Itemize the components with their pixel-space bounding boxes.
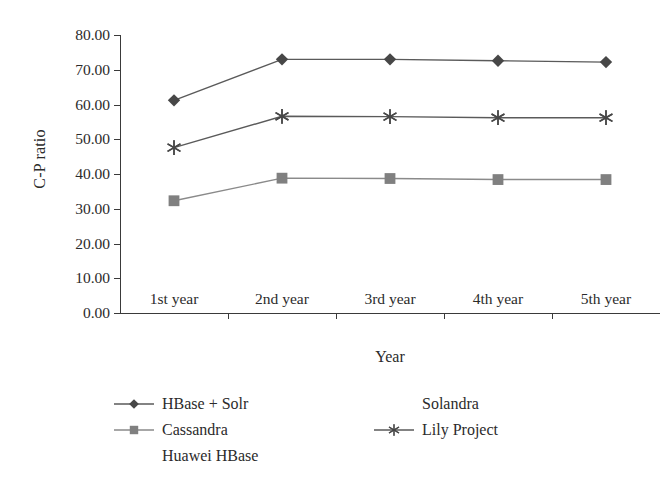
chart-legend: HBase + SolrCassandraHuawei HBaseSolandr… [112,392,582,472]
legend-item[interactable]: Huawei HBase [112,444,258,468]
legend-label: Lily Project [416,422,498,438]
y-axis-tick-label: 10.00 [44,271,110,287]
y-axis-tick-mark [114,209,120,210]
y-axis-tick-mark [114,70,120,71]
square-marker [277,173,288,184]
y-axis-tick-mark [114,35,120,36]
y-axis-tick-mark [114,139,120,140]
legend-marker-asterisk-icon [372,420,416,440]
legend-marker-square-icon [112,420,156,440]
y-axis-tick-mark [114,244,120,245]
x-axis-label: Year [120,348,660,366]
legend-marker-diamond-icon [112,394,156,414]
legend-label: Huawei HBase [156,448,258,464]
x-axis-tick-mark [552,313,553,319]
square-marker [385,173,396,184]
diamond-marker [276,53,288,65]
x-axis-tick-mark [228,313,229,319]
plot-area [120,35,660,313]
x-axis-tick-label: 4th year [438,290,558,308]
y-axis-tick-mark [114,313,120,314]
y-axis-tick-mark [114,278,120,279]
x-axis-tick-label: 5th year [546,290,666,308]
diamond-marker [384,53,396,65]
legend-label: Cassandra [156,422,228,438]
diamond-marker [600,56,612,68]
y-axis-tick-label: 0.00 [44,305,110,321]
y-axis-tick-label: 20.00 [44,236,110,252]
square-marker [493,174,504,185]
y-axis-tick-mark [114,105,120,106]
asterisk-marker [168,140,181,155]
y-axis-tick-label: 60.00 [44,97,110,113]
square-marker [169,195,180,206]
chart-figure: C-P ratio 0.0010.0020.0030.0040.0050.006… [0,0,669,479]
legend-item[interactable]: Cassandra [112,418,228,442]
y-axis-tick-mark [114,174,120,175]
series-layer [120,35,660,313]
legend-marker-none-icon [112,446,156,466]
y-axis-tick-label: 70.00 [44,62,110,78]
y-axis-tick-labels: 0.0010.0020.0030.0040.0050.0060.0070.008… [44,0,110,479]
diamond-marker [129,399,139,409]
legend-item[interactable]: HBase + Solr [112,392,248,416]
x-axis-line [120,313,660,314]
y-axis-tick-label: 80.00 [44,27,110,43]
square-marker [601,174,612,185]
x-axis-tick-mark [444,313,445,319]
legend-label: Solandra [416,396,479,412]
square-marker [130,426,138,434]
legend-item[interactable]: Lily Project [372,418,498,442]
x-axis-tick-mark [336,313,337,319]
diamond-marker [168,94,180,106]
x-axis-tick-label: 2nd year [222,290,342,308]
y-axis-tick-label: 50.00 [44,132,110,148]
x-axis-tick-label: 3rd year [330,290,450,308]
y-axis-tick-label: 40.00 [44,166,110,182]
legend-marker-none-icon [372,394,416,414]
x-axis-tick-label: 1st year [114,290,234,308]
legend-item[interactable]: Solandra [372,392,479,416]
legend-label: HBase + Solr [156,396,248,412]
y-axis-tick-label: 30.00 [44,201,110,217]
diamond-marker [492,55,504,67]
